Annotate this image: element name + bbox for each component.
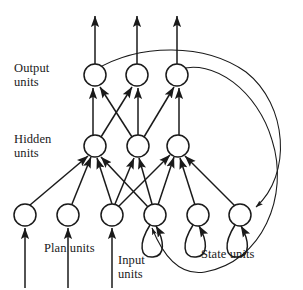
node-output-2[interactable] xyxy=(126,64,148,86)
node-plan-2[interactable] xyxy=(57,204,79,226)
recurrent-output3-to-state1 xyxy=(152,67,277,272)
recurrent-connections xyxy=(95,50,280,273)
edge-input1-hidden1 xyxy=(97,158,112,204)
edge-state1-hidden2 xyxy=(139,158,152,204)
output-layer-nodes xyxy=(84,64,188,86)
node-output-3[interactable] xyxy=(166,64,188,86)
edge-hidden2-output3 xyxy=(144,87,174,137)
label-plan-units: Plan units xyxy=(44,242,95,256)
label-input-units: Input units xyxy=(118,254,145,281)
node-hidden-2[interactable] xyxy=(127,135,149,157)
node-hidden-1[interactable] xyxy=(84,135,106,157)
edge-plan2-hidden1 xyxy=(72,157,91,204)
node-state-2[interactable] xyxy=(187,204,209,226)
label-state-units: State units xyxy=(201,248,255,262)
node-input-1[interactable] xyxy=(101,204,123,226)
label-hidden-units: Hidden units xyxy=(14,133,51,160)
edge-input1-hidden3 xyxy=(118,155,170,207)
hidden-layer-nodes xyxy=(84,135,189,157)
bottom-layer-nodes xyxy=(14,204,251,226)
node-plan-1[interactable] xyxy=(14,204,36,226)
label-output-units: Output units xyxy=(14,62,49,89)
node-state-3[interactable] xyxy=(229,204,251,226)
bottom-to-hidden-connections xyxy=(30,155,235,207)
edge-plan1-hidden1 xyxy=(30,156,88,205)
node-hidden-3[interactable] xyxy=(167,135,189,157)
hidden-to-output-connections xyxy=(93,87,179,137)
node-output-1[interactable] xyxy=(84,64,106,86)
network-diagram-figure: Output units Hidden units Plan units Inp… xyxy=(0,0,303,290)
edge-state2-hidden3 xyxy=(180,158,195,205)
external-output-arrows xyxy=(95,16,177,64)
external-input-arrows xyxy=(25,228,112,288)
node-state-1[interactable] xyxy=(144,204,166,226)
